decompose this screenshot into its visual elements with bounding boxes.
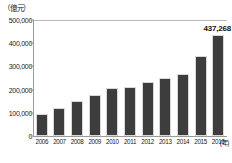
x-tick-label: 2006 bbox=[36, 138, 49, 145]
x-tick-label: 2011 bbox=[124, 138, 136, 145]
bar bbox=[195, 56, 207, 136]
x-tick-label: 2015 bbox=[194, 138, 207, 145]
x-tick-label: 2009 bbox=[88, 138, 101, 145]
bar bbox=[124, 87, 136, 136]
x-tick-label: 2012 bbox=[141, 138, 154, 145]
x-tick-label: 2014 bbox=[177, 138, 190, 145]
bar bbox=[212, 35, 224, 136]
y-tick-label: 400,000 bbox=[9, 40, 32, 47]
bar bbox=[106, 88, 118, 136]
bar-series bbox=[33, 20, 227, 136]
bar bbox=[53, 108, 65, 136]
bar-chart: （億元） 0100,000200,000300,000400,000500,00… bbox=[0, 0, 232, 163]
bar bbox=[159, 78, 171, 136]
y-tick-label: 100,000 bbox=[9, 109, 32, 116]
bar bbox=[36, 114, 48, 136]
bar bbox=[142, 82, 154, 136]
bar bbox=[177, 74, 189, 136]
y-axis-ticks: 0100,000200,000300,000400,000500,000 bbox=[0, 0, 32, 163]
x-axis-line bbox=[33, 136, 227, 137]
y-tick-label: 300,000 bbox=[9, 63, 32, 70]
bar bbox=[89, 95, 101, 136]
x-tick-label: 2013 bbox=[159, 138, 172, 145]
x-tick-label: 2007 bbox=[53, 138, 66, 145]
x-tick-label: 2008 bbox=[71, 138, 84, 145]
data-label: 437,268 bbox=[203, 24, 231, 33]
x-axis-ticks: 2006200720082009201020112012201320142015… bbox=[33, 138, 227, 150]
bar bbox=[71, 101, 83, 136]
y-tick-label: 200,000 bbox=[9, 86, 32, 93]
y-tick-label: 500,000 bbox=[9, 17, 32, 24]
x-tick-label: 2016 bbox=[212, 138, 225, 145]
x-tick-label: 2010 bbox=[106, 138, 119, 145]
